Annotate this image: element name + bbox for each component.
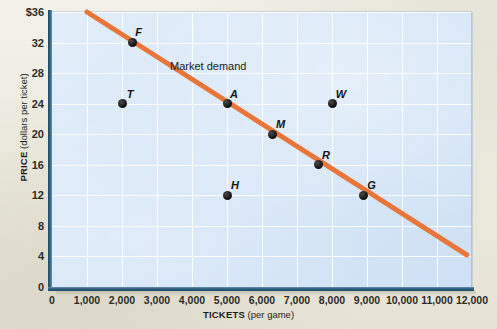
x-tick-label: 8,000 (319, 294, 345, 306)
gridline-horizontal (52, 12, 472, 13)
x-axis-title-note: (per game) (248, 309, 294, 320)
gridline-vertical (367, 12, 368, 287)
gridline-horizontal (52, 226, 472, 227)
data-point-h (223, 191, 232, 200)
data-point-f (128, 38, 137, 47)
gridline-horizontal (52, 73, 472, 74)
gridline-vertical (262, 12, 263, 287)
x-tick-label: 3,000 (144, 294, 170, 306)
data-point-label-a: A (230, 88, 238, 100)
x-tick-label: 5,000 (214, 294, 240, 306)
y-axis-title: PRICE (dollars per ticket) (18, 28, 29, 228)
data-point-w (328, 99, 337, 108)
y-axis-title-note: (dollars per ticket) (18, 73, 29, 149)
x-tick-label: 11,000 (421, 294, 453, 306)
data-point-t (118, 99, 127, 108)
gridline-horizontal (52, 256, 472, 257)
gridline-vertical (87, 12, 88, 287)
plot-top-edge (52, 11, 472, 12)
x-tick-label: 12,000 (456, 294, 488, 306)
y-axis-title-bold: PRICE (18, 152, 29, 182)
y-axis-line (48, 10, 52, 291)
gridline-vertical (297, 12, 298, 287)
data-point-a (223, 99, 232, 108)
x-axis-title-bold: TICKETS (203, 309, 245, 320)
gridline-horizontal (52, 134, 472, 135)
gridline-vertical (157, 12, 158, 287)
x-tick-label: 7,000 (284, 294, 310, 306)
y-tick-label: 0 (0, 281, 44, 293)
gridline-horizontal (52, 104, 472, 105)
x-tick-label: 1,000 (74, 294, 100, 306)
data-point-label-f: F (135, 26, 142, 38)
data-point-m (268, 130, 277, 139)
data-point-label-r: R (322, 149, 330, 161)
x-tick-label: 6,000 (249, 294, 275, 306)
x-tick-label: 10,000 (386, 294, 418, 306)
x-axis-line (48, 287, 474, 291)
gridline-vertical (192, 12, 193, 287)
data-point-label-h: H (231, 179, 239, 191)
y-tick-label: 4 (0, 250, 44, 262)
gridline-vertical (402, 12, 403, 287)
gridline-horizontal (52, 195, 472, 196)
gridline-vertical (332, 12, 333, 287)
x-axis-title: TICKETS (per game) (0, 309, 497, 320)
data-point-label-w: W (336, 88, 346, 100)
x-tick-label: 2,000 (109, 294, 135, 306)
plot-area (52, 12, 472, 287)
plot-right-edge (471, 12, 473, 288)
x-tick-label: 0 (49, 294, 55, 306)
x-tick-label: 4,000 (179, 294, 205, 306)
gridline-vertical (122, 12, 123, 287)
annotation-market-demand: Market demand (170, 60, 246, 72)
data-point-r (314, 160, 323, 169)
data-point-g (359, 191, 368, 200)
x-tick-label: 9,000 (354, 294, 380, 306)
gridline-horizontal (52, 43, 472, 44)
data-point-label-g: G (367, 179, 376, 191)
gridline-vertical (437, 12, 438, 287)
chart-figure: $36322824201612840 01,0002,0003,0004,000… (0, 0, 497, 329)
gridline-horizontal (52, 165, 472, 166)
data-point-label-m: M (276, 118, 285, 130)
gridline-vertical (227, 12, 228, 287)
y-tick-label: $36 (0, 6, 44, 18)
data-point-label-t: T (127, 88, 134, 100)
